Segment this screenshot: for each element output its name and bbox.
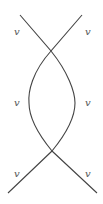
crossing-diagram: v v v v v v [0, 0, 103, 204]
label-mid-left: v [14, 97, 20, 108]
label-top-left: v [14, 26, 20, 37]
label-mid-right: v [85, 97, 91, 108]
label-bottom-left: v [14, 168, 20, 179]
label-top-right: v [85, 26, 91, 37]
label-bottom-right: v [85, 168, 91, 179]
